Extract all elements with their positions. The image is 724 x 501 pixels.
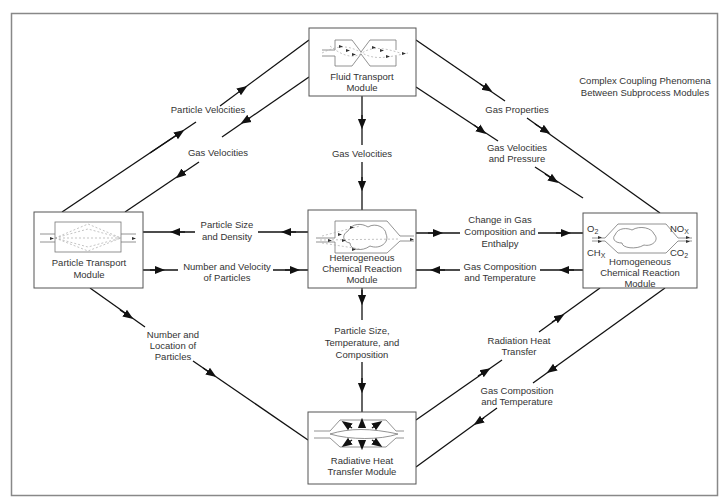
edge-particle-size-temperature-composition: Particle Size, Temperature, and Composit…: [325, 288, 399, 412]
module-label: Particle Transport: [52, 257, 127, 268]
edge-gas-properties: Gas Properties: [416, 40, 660, 213]
edge-gas-velocities-center: Gas Velocities: [332, 96, 392, 210]
edge-label: Gas Velocities: [487, 142, 547, 153]
edge-label: and Pressure: [489, 153, 546, 164]
edge-label: Particles: [155, 351, 192, 362]
edge-label: Composition and: [464, 226, 535, 237]
module-label: Module: [346, 82, 377, 93]
edge-label: and Density: [202, 231, 252, 242]
edge-label: Gas Composition: [481, 385, 554, 396]
edge-label: Change in Gas: [468, 214, 532, 225]
module-label: Module: [73, 269, 104, 280]
edge-label: Particle Velocities: [171, 104, 246, 115]
particle-transport-module: Particle Transport Module: [34, 212, 143, 288]
edge-label: Gas Properties: [485, 104, 549, 115]
edge-label: of Particles: [204, 272, 251, 283]
heterogeneous-reaction-module: Heterogeneous Chemical Reaction Module: [308, 210, 416, 288]
edge-label: Enthalpy: [482, 238, 519, 249]
edge-particle-size-density: Particle Size and Density: [143, 219, 308, 242]
module-label: Radiative Heat: [331, 455, 394, 466]
module-label: Module: [624, 278, 655, 289]
diagram-title-line2: Between Subprocess Modules: [581, 87, 710, 98]
module-label: Heterogeneous: [330, 252, 395, 263]
module-label: Homogeneous: [609, 256, 671, 267]
edge-label: Particle Size: [201, 219, 254, 230]
module-label: Module: [346, 274, 377, 285]
edge-number-velocity-particles: Number and Velocity of Particles: [143, 261, 308, 283]
diagram-title-line1: Complex Coupling Phenomena: [579, 75, 711, 86]
edge-label: Radiation Heat: [488, 335, 551, 346]
edge-label: Number and Velocity: [183, 261, 271, 272]
coupling-diagram: Complex Coupling Phenomena Between Subpr…: [0, 0, 724, 501]
edge-label: Number and: [147, 329, 199, 340]
module-label: Fluid Transport: [330, 71, 394, 82]
fluid-transport-module: Fluid Transport Module: [309, 28, 416, 96]
edge-label: Location of: [150, 340, 197, 351]
edge-label: Particle Size,: [334, 325, 389, 336]
edge-number-location-particles: Number and Location of Particles: [90, 288, 308, 440]
edge-change-gas-composition: Change in Gas Composition and Enthalpy: [416, 214, 583, 249]
edge-label: and Temperature: [464, 272, 536, 283]
edge-gas-velocities-left: Gas Velocities: [125, 77, 309, 212]
edge-label: Transfer: [501, 346, 536, 357]
radiative-heat-transfer-module: Radiative Heat Transfer Module: [308, 412, 416, 484]
edge-label: Gas Composition: [464, 261, 537, 272]
edge-gas-composition-temperature-mid: Gas Composition and Temperature: [416, 261, 583, 283]
edge-label: Gas Velocities: [188, 147, 248, 158]
edge-label: Composition: [336, 349, 389, 360]
edge-label: and Temperature: [481, 396, 553, 407]
module-label: Chemical Reaction: [600, 267, 680, 278]
module-label: Chemical Reaction: [322, 263, 402, 274]
edge-label: Gas Velocities: [332, 148, 392, 159]
homogeneous-reaction-module: O2 CHX NOX CO2 Homogeneous Chemical Reac…: [583, 213, 697, 289]
module-label: Transfer Module: [328, 466, 397, 477]
edge-label: Temperature, and: [325, 337, 399, 348]
edge-particle-velocities: Particle Velocities: [0, 0, 309, 212]
edge-gas-composition-temperature-low: Gas Composition and Temperature: [416, 288, 665, 467]
